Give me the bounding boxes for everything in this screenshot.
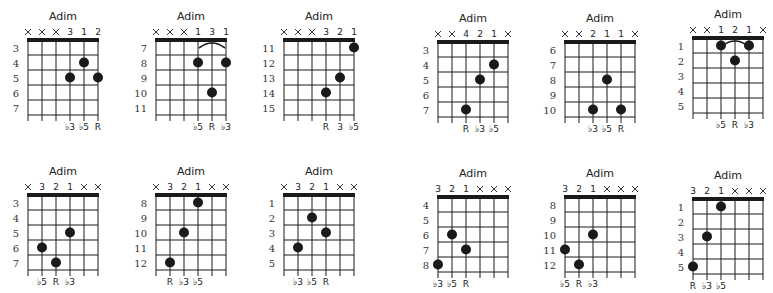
fret-number: 13: [262, 73, 275, 84]
fret-number: 7: [423, 105, 429, 116]
finger-number: 1: [195, 27, 201, 37]
finger-dot: [602, 75, 612, 85]
finger-dot: [65, 73, 75, 83]
fret-number: 8: [550, 200, 556, 211]
finger-dot: [321, 228, 331, 238]
fret-number: 7: [141, 43, 147, 54]
fret-number: 4: [423, 60, 429, 71]
muted-string-icon: [576, 31, 582, 37]
muted-string-icon: [53, 29, 59, 35]
interval-label: ♭3: [433, 279, 443, 289]
interval-label: ♭5: [79, 122, 89, 132]
finger-dot: [221, 58, 231, 68]
fret-number: 8: [141, 58, 147, 69]
finger-dot: [730, 56, 740, 66]
muted-string-icon: [337, 184, 343, 190]
muted-string-icon: [25, 29, 31, 35]
finger-dot: [744, 41, 754, 51]
fretboard-grid: 34567321♭5R♭3: [6, 165, 116, 293]
finger-number: 2: [732, 25, 738, 35]
fret-number: 11: [134, 243, 147, 254]
muted-string-icon: [25, 184, 31, 190]
fret-number: 11: [543, 245, 556, 256]
nut-bar: [564, 40, 636, 44]
nut-bar: [283, 38, 355, 42]
muted-string-icon: [209, 184, 215, 190]
muted-string-icon: [760, 27, 766, 33]
muted-string-icon: [153, 184, 159, 190]
finger-number: 2: [309, 182, 315, 192]
interval-label: R: [732, 120, 738, 130]
fret-number: 8: [423, 260, 429, 271]
finger-dot: [688, 262, 698, 272]
fret-number: 12: [543, 260, 556, 271]
interval-label: ♭5: [193, 277, 203, 287]
muted-string-icon: [153, 29, 159, 35]
fretboard-grid: 45678321♭3♭5R: [416, 167, 526, 293]
fret-number: 3: [13, 43, 19, 54]
nut-bar: [692, 36, 764, 40]
fretboard-grid: 34567312♭3♭5R: [6, 10, 116, 140]
fret-number: 14: [262, 88, 275, 99]
muted-string-icon: [704, 27, 710, 33]
chord-diagram-c9: Adim12345321♭3♭5R: [262, 165, 372, 293]
finger-dot: [461, 245, 471, 255]
fret-number: 9: [550, 215, 556, 226]
finger-dot: [489, 60, 499, 70]
fret-number: 3: [678, 71, 684, 82]
finger-number: 1: [604, 29, 610, 39]
chord-diagram-c4: Adim34567421R♭3♭5: [416, 12, 526, 142]
nut-bar: [437, 40, 509, 44]
finger-dot: [588, 230, 598, 240]
finger-number: 1: [195, 182, 201, 192]
fret-number: 5: [13, 73, 19, 84]
muted-string-icon: [746, 188, 752, 194]
finger-number: 3: [295, 182, 301, 192]
interval-label: R: [209, 122, 215, 132]
fret-number: 4: [13, 213, 19, 224]
finger-dot: [447, 230, 457, 240]
finger-number: 1: [223, 27, 229, 37]
interval-label: ♭5: [602, 124, 612, 134]
interval-label: ♭5: [489, 124, 499, 134]
fret-number: 6: [423, 90, 429, 101]
chord-diagram-c12: Adim12345321R♭3♭5: [671, 169, 773, 293]
muted-string-icon: [632, 186, 638, 192]
muted-string-icon: [81, 184, 87, 190]
muted-string-icon: [760, 188, 766, 194]
finger-dot: [37, 243, 47, 253]
fret-number: 10: [134, 228, 147, 239]
finger-number: 2: [53, 182, 59, 192]
interval-label: ♭3: [588, 124, 598, 134]
interval-label: R: [323, 122, 329, 132]
fret-number: 12: [134, 258, 147, 269]
fret-number: 6: [13, 88, 19, 99]
finger-number: 2: [95, 27, 101, 37]
fret-number: 10: [543, 105, 556, 116]
finger-dot: [93, 73, 103, 83]
finger-dot: [560, 245, 570, 255]
finger-number: 2: [477, 29, 483, 39]
chord-diagram-c7: Adim34567321♭5R♭3: [6, 165, 116, 293]
finger-number: 2: [576, 184, 582, 194]
fret-number: 1: [678, 41, 684, 52]
finger-number: 2: [704, 186, 710, 196]
fret-number: 5: [13, 228, 19, 239]
fret-number: 2: [269, 213, 275, 224]
nut-bar: [564, 195, 636, 199]
muted-string-icon: [435, 31, 441, 37]
finger-dot: [574, 260, 584, 270]
fret-number: 11: [134, 103, 147, 114]
finger-dot: [165, 258, 175, 268]
fretboard-grid: 678910211♭3♭5R: [543, 12, 653, 142]
fret-number: 12: [262, 58, 275, 69]
finger-dot: [307, 213, 317, 223]
finger-dot: [193, 58, 203, 68]
muted-string-icon: [39, 29, 45, 35]
finger-dot: [433, 260, 443, 270]
interval-label: ♭5: [716, 281, 726, 291]
interval-label: R: [323, 277, 329, 287]
muted-string-icon: [618, 186, 624, 192]
finger-dot: [335, 73, 345, 83]
nut-bar: [692, 197, 764, 201]
